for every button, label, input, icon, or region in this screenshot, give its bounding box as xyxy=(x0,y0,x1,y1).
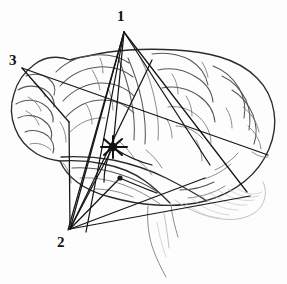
brain-figure: .outline { fill: none; stroke: #2b2b2b; … xyxy=(0,0,287,284)
label-point-2: 2 xyxy=(57,235,65,250)
cortex-focus-node xyxy=(109,143,117,151)
secondary-focus-node xyxy=(117,175,122,180)
brain-illustration: .outline { fill: none; stroke: #2b2b2b; … xyxy=(0,0,287,284)
label-point-3: 3 xyxy=(9,53,17,68)
label-point-1: 1 xyxy=(117,9,125,24)
figure-background xyxy=(0,0,287,284)
